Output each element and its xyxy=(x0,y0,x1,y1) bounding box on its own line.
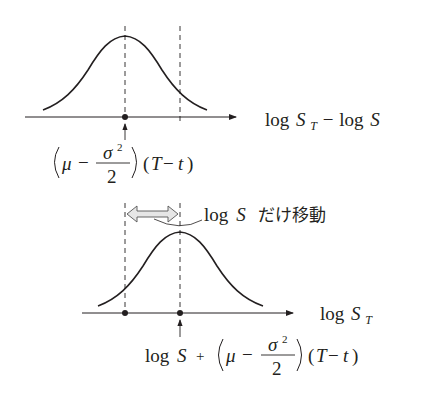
top-axis-label: log S T − log S xyxy=(265,109,380,134)
svg-text:S: S xyxy=(177,345,187,366)
svg-text:−: − xyxy=(328,345,339,366)
top-formula-right-paren xyxy=(132,147,137,178)
svg-text:t: t xyxy=(178,153,184,174)
svg-text:μ: μ xyxy=(225,345,236,366)
svg-text:log: log xyxy=(145,345,170,366)
svg-text:μ: μ xyxy=(61,153,72,174)
svg-text:2: 2 xyxy=(282,333,288,345)
double-arrow-icon xyxy=(127,206,178,222)
bottom-shifted-mean-dot xyxy=(177,310,183,316)
top-mean-dot xyxy=(122,114,128,120)
svg-text:−: − xyxy=(78,152,89,173)
bottom-axis-label: log S T xyxy=(320,303,373,327)
bottom-mean-formula: log S + μ − σ 2 2 ( T − t ) xyxy=(145,333,358,379)
shift-label: log S だけ移動 xyxy=(204,203,326,225)
bottom-formula-right-paren xyxy=(297,339,302,371)
svg-text:): ) xyxy=(187,153,193,175)
svg-text:2: 2 xyxy=(272,358,282,379)
svg-text:T: T xyxy=(151,153,163,174)
svg-text:T: T xyxy=(316,345,328,366)
bottom-bell-curve xyxy=(98,232,263,306)
top-panel xyxy=(25,26,236,178)
svg-text:−: − xyxy=(163,153,174,174)
svg-text:): ) xyxy=(352,345,358,367)
svg-text:2: 2 xyxy=(117,141,123,153)
svg-text:+: + xyxy=(196,348,204,364)
diagram-canvas: log S T − log S μ − σ 2 2 ( T − t ) log … xyxy=(0,0,423,406)
svg-text:−: − xyxy=(242,344,253,365)
top-formula-left-paren xyxy=(55,147,60,178)
bottom-original-mean-dot xyxy=(122,310,128,316)
bottom-formula-left-paren xyxy=(219,339,224,371)
shift-leader-line xyxy=(154,219,202,226)
top-mean-formula: μ − σ 2 2 ( T − t ) xyxy=(61,141,193,187)
svg-text:σ: σ xyxy=(103,142,113,163)
shift-annotation xyxy=(125,203,202,313)
svg-text:t: t xyxy=(343,345,349,366)
svg-text:σ: σ xyxy=(268,334,278,355)
svg-text:(: ( xyxy=(143,153,149,175)
svg-text:(: ( xyxy=(308,345,314,367)
svg-text:2: 2 xyxy=(107,166,117,187)
